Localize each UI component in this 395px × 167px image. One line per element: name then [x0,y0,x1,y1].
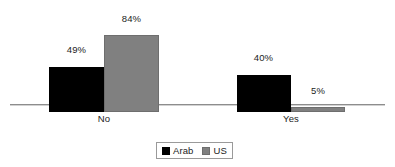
black-square-icon [162,147,170,155]
category-label-yes: Yes [261,113,321,125]
value-label-yes-arab: 40% [236,52,291,63]
bar-chart: 49% 84% No 40% 5% Yes Arab US [0,0,395,167]
plot-area: 49% 84% No 40% 5% Yes [0,0,395,112]
value-label-no-us: 84% [104,13,159,24]
legend: Arab US [156,142,233,159]
value-label-yes-us: 5% [291,85,345,96]
legend-entry-us[interactable]: US [202,145,226,156]
value-label-no-arab: 49% [49,44,104,55]
legend-label-us: US [213,145,226,156]
bar-no-arab[interactable] [49,67,104,112]
legend-entry-arab[interactable]: Arab [162,145,193,156]
bar-yes-us[interactable] [291,107,345,112]
category-label-no: No [74,113,134,125]
bar-no-us[interactable] [104,35,159,112]
bar-yes-arab[interactable] [237,75,291,112]
legend-label-arab: Arab [173,145,193,156]
gray-square-icon [202,147,210,155]
